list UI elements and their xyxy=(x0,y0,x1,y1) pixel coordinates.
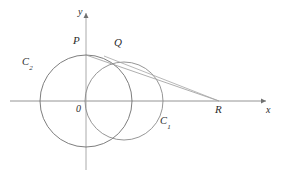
circle-label-c1-text: C xyxy=(160,115,167,126)
point-label-r: R xyxy=(215,104,222,115)
point-label-q: Q xyxy=(114,37,122,48)
origin-label: 0 xyxy=(76,104,81,114)
geometry-canvas xyxy=(0,0,281,172)
circle-label-c2-text: C xyxy=(22,56,29,67)
circle-label-c1-subscript: 1 xyxy=(167,123,171,131)
circle-label-c2-subscript: 2 xyxy=(29,64,33,72)
geometry-figure: y x 0 P Q R C2 C1 xyxy=(0,0,281,172)
point-label-p: P xyxy=(73,35,80,46)
x-axis-label: x xyxy=(266,105,270,115)
circle-label-c1: C1 xyxy=(160,116,171,129)
segment-q-r xyxy=(104,56,219,101)
segment-p-r xyxy=(86,55,219,101)
circle-label-c2: C2 xyxy=(22,57,33,70)
y-axis-label: y xyxy=(78,7,82,17)
